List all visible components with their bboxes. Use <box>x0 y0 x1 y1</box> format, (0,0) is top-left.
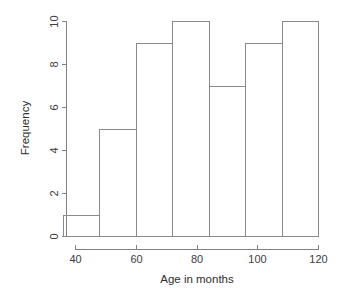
x-tick-label-100: 100 <box>248 253 266 265</box>
x-axis-title: Age in months <box>160 273 234 285</box>
x-tick-label-120: 120 <box>309 253 327 265</box>
plot-canvas: 0 2 4 6 8 10 Frequency 40 60 <box>0 0 347 295</box>
y-axis-title: Frequency <box>19 101 31 156</box>
y-tick-label-6: 6 <box>48 104 60 110</box>
y-tick-label-4: 4 <box>48 147 60 153</box>
y-tick-label-10: 10 <box>48 15 60 27</box>
y-tick-label-2: 2 <box>48 190 60 196</box>
histogram-plot: 0 2 4 6 8 10 Frequency 40 60 <box>0 0 347 295</box>
y-tick-label-0: 0 <box>48 233 60 239</box>
x-tick-label-40: 40 <box>69 253 81 265</box>
y-tick-label-8: 8 <box>48 61 60 67</box>
x-tick-label-80: 80 <box>191 253 203 265</box>
x-tick-label-60: 60 <box>130 253 142 265</box>
